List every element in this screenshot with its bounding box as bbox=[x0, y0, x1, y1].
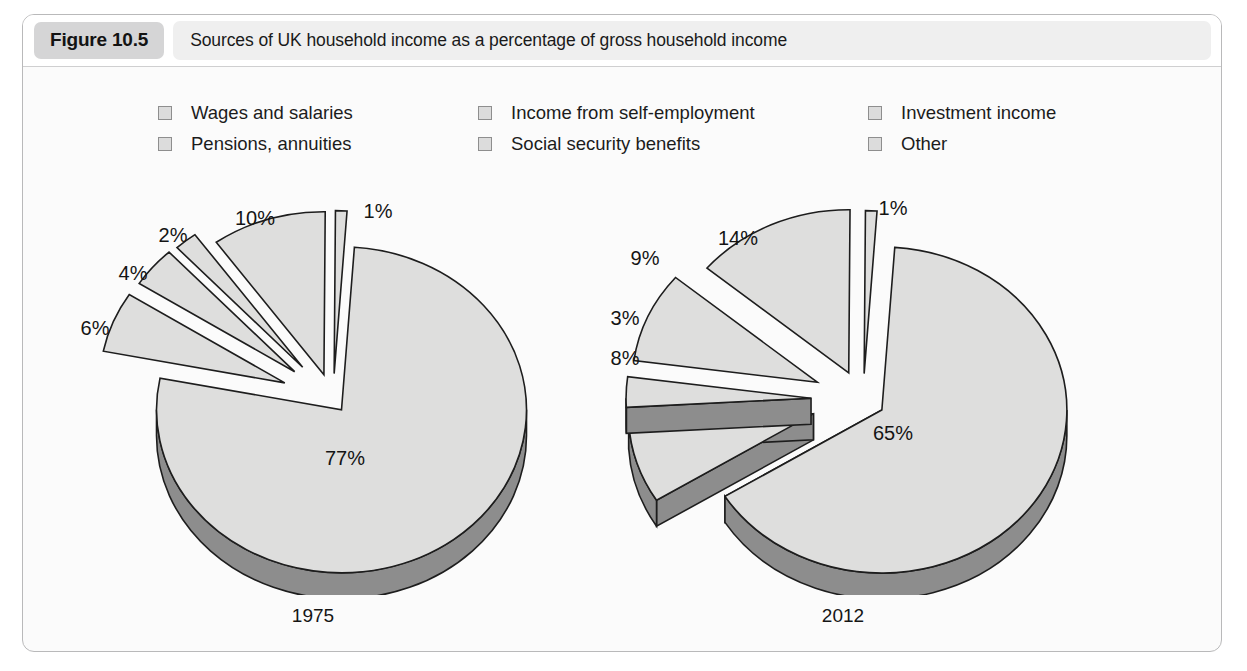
pie-slice bbox=[626, 377, 811, 434]
pie-chart-2012-svg: 65%8%3%9%14%1% bbox=[563, 165, 1123, 595]
pie-slice-top bbox=[334, 211, 347, 374]
legend-swatch-icon bbox=[158, 137, 172, 151]
pie-slice-value-label: 14% bbox=[718, 227, 758, 249]
pie-chart-1975: 77%6%4%2%10%1% 1975 bbox=[33, 165, 593, 635]
page-title: Sources of UK household income as a perc… bbox=[190, 30, 787, 51]
legend-swatch-icon bbox=[158, 106, 172, 120]
pie-slice bbox=[334, 211, 347, 374]
pie-chart-2012: 65%8%3%9%14%1% 2012 bbox=[563, 165, 1123, 635]
legend-item-label: Wages and salaries bbox=[191, 102, 353, 124]
legend-item-wages: Wages and salaries bbox=[158, 97, 478, 128]
figure-title-bar: Figure 10.5 Sources of UK household inco… bbox=[23, 15, 1221, 67]
legend-item-pensions: Pensions, annuities bbox=[158, 128, 478, 159]
figure-number-badge: Figure 10.5 bbox=[34, 22, 164, 59]
pie-slice bbox=[864, 211, 877, 374]
legend-item-other: Other bbox=[868, 128, 1158, 159]
pie-slice-value-label: 9% bbox=[631, 247, 660, 269]
legend-item-investment-income: Investment income bbox=[868, 97, 1158, 128]
legend-item-label: Social security benefits bbox=[511, 133, 700, 155]
legend-swatch-icon bbox=[478, 137, 492, 151]
legend-item-social-security: Social security benefits bbox=[478, 128, 868, 159]
pie-slice-value-label: 1% bbox=[879, 197, 908, 219]
pie-slice-value-label: 65% bbox=[873, 422, 913, 444]
pie-chart-1975-svg: 77%6%4%2%10%1% bbox=[33, 165, 593, 595]
legend-swatch-icon bbox=[478, 106, 492, 120]
legend-item-self-employment: Income from self-employment bbox=[478, 97, 868, 128]
pie-slice-value-label: 4% bbox=[119, 262, 148, 284]
legend-item-label: Other bbox=[901, 133, 947, 155]
pie-slice-top bbox=[864, 211, 877, 374]
figure-title-strip: Sources of UK household income as a perc… bbox=[173, 21, 1211, 60]
pie-slice-value-label: 8% bbox=[611, 347, 640, 369]
figure-panel: Figure 10.5 Sources of UK household inco… bbox=[22, 14, 1222, 652]
legend-item-label: Investment income bbox=[901, 102, 1056, 124]
legend-swatch-icon bbox=[868, 137, 882, 151]
chart-year-label: 1975 bbox=[33, 605, 593, 627]
pie-slice-value-label: 6% bbox=[81, 317, 110, 339]
pie-slice-value-label: 10% bbox=[235, 207, 275, 229]
chart-legend: Wages and salaries Income from self-empl… bbox=[158, 97, 1158, 159]
legend-swatch-icon bbox=[868, 106, 882, 120]
chart-year-label: 2012 bbox=[563, 605, 1123, 627]
legend-item-label: Pensions, annuities bbox=[191, 133, 351, 155]
pie-slice-value-label: 2% bbox=[159, 224, 188, 246]
pie-slice-value-label: 3% bbox=[611, 307, 640, 329]
legend-item-label: Income from self-employment bbox=[511, 102, 755, 124]
charts-container: 77%6%4%2%10%1% 1975 65%8%3%9%14%1% 2012 bbox=[23, 165, 1221, 635]
pie-slice-value-label: 77% bbox=[325, 447, 365, 469]
pie-slice-value-label: 1% bbox=[364, 200, 393, 222]
